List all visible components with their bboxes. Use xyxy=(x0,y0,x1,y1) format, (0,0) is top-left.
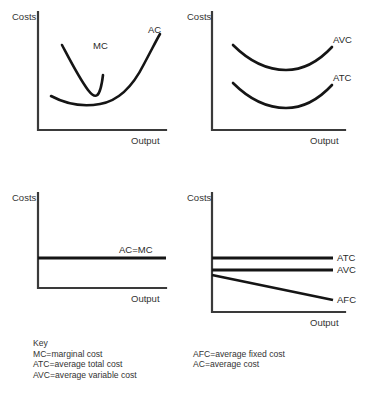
key-left-column: Key MC=marginal cost ATC=average total c… xyxy=(33,338,137,380)
key-entry-ac: AC=average cost xyxy=(193,359,285,370)
curve-label-avc: AVC xyxy=(333,35,352,45)
curve-label-afc: AFC xyxy=(337,295,356,305)
x-axis-label-bottom-left: Output xyxy=(131,294,160,304)
key-entry-afc: AFC=average fixed cost xyxy=(193,349,285,360)
key-entry-mc: MC=marginal cost xyxy=(33,349,137,360)
panel-bottom-right: Costs Output ATC AVC AFC xyxy=(185,160,369,335)
curve-label-mc: MC xyxy=(93,41,108,51)
x-axis-label-top-left: Output xyxy=(131,136,160,146)
y-axis-label-top-right: Costs xyxy=(187,12,211,22)
y-axis-label-bottom-right: Costs xyxy=(187,193,211,203)
key-heading: Key xyxy=(33,338,137,349)
panel-top-left: Costs Output MC AC xyxy=(0,0,185,160)
key-entry-atc: ATC=average total cost xyxy=(33,359,137,370)
panel-bottom-left-plot xyxy=(0,160,185,335)
curve-label-ac-eq-mc: AC=MC xyxy=(119,245,153,255)
curve-label-ac: AC xyxy=(148,25,161,35)
axes-bottom-left xyxy=(38,193,166,288)
curve-label-atc: ATC xyxy=(333,73,351,83)
x-axis-label-bottom-right: Output xyxy=(310,318,339,328)
cost-curves-figure: Costs Output MC AC Costs Output AVC ATC … xyxy=(0,0,369,396)
panel-top-right: Costs Output AVC ATC xyxy=(185,0,369,160)
curve-label-atc-flat: ATC xyxy=(337,253,355,263)
y-axis-label-top-left: Costs xyxy=(12,12,36,22)
curve-atc xyxy=(233,83,332,108)
key-entry-avc: AVC=average variable cost xyxy=(33,370,137,381)
curve-avc xyxy=(233,45,332,70)
axes-top-right xyxy=(212,12,345,130)
panel-bottom-left: Costs Output AC=MC xyxy=(0,160,185,335)
axes-bottom-right xyxy=(212,193,345,312)
curve-label-avc-flat: AVC xyxy=(337,265,356,275)
panel-bottom-right-plot xyxy=(185,160,369,335)
key-right-column: AFC=average fixed cost AC=average cost xyxy=(193,349,285,370)
axes-top-left xyxy=(38,12,166,130)
line-afc xyxy=(212,275,333,300)
y-axis-label-bottom-left: Costs xyxy=(12,193,36,203)
curve-mc xyxy=(62,45,103,96)
x-axis-label-top-right: Output xyxy=(310,136,339,146)
